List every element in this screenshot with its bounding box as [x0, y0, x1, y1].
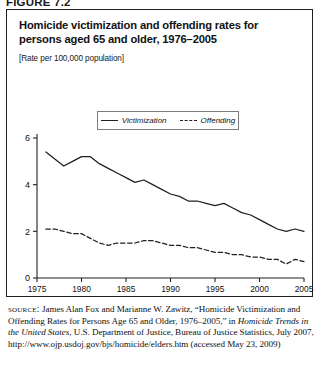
x-tick-label: 1990: [161, 284, 180, 294]
series-line-victimization: [46, 152, 304, 231]
chart-series: [46, 152, 304, 264]
x-axis-ticks: 1975198019851990199520002005: [28, 278, 314, 294]
y-tick-label: 0: [25, 273, 30, 283]
x-tick-label: 1980: [72, 284, 91, 294]
y-tick-label: 6: [25, 133, 30, 143]
x-tick-label: 1975: [28, 284, 47, 294]
chart-axes: [37, 134, 304, 278]
plot-area: 0246 1975198019851990199520002005: [7, 10, 314, 298]
x-tick-label: 2000: [250, 284, 269, 294]
source-note: source: James Alan Fox and Marianne W. Z…: [8, 303, 320, 350]
figure-label: FIGURE 7.2: [6, 0, 71, 8]
x-tick-label: 1985: [117, 284, 136, 294]
y-tick-label: 2: [25, 227, 30, 237]
source-label: source:: [8, 303, 40, 314]
figure-container: Homicide victimization and offending rat…: [6, 9, 313, 297]
x-tick-label: 2005: [295, 284, 314, 294]
series-line-offending: [46, 229, 304, 264]
line-chart-svg: 0246 1975198019851990199520002005: [7, 10, 314, 298]
x-tick-label: 1995: [206, 284, 225, 294]
y-axis-ticks: 0246: [25, 133, 37, 283]
y-tick-label: 4: [25, 180, 30, 190]
